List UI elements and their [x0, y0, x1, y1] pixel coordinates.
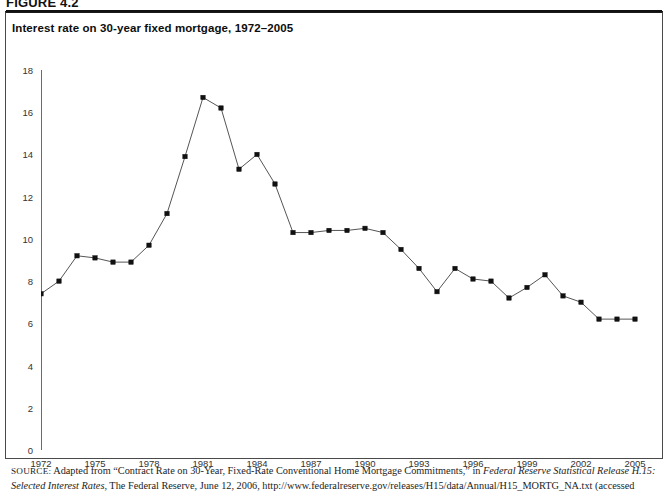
- data-point-marker: [255, 152, 259, 156]
- data-point-marker: [597, 317, 601, 321]
- y-axis-tick-label: 0: [11, 445, 33, 456]
- data-point-marker: [237, 167, 241, 171]
- data-point-marker: [381, 230, 385, 234]
- data-point-marker: [417, 266, 421, 270]
- y-axis-tick-label: 10: [11, 233, 33, 244]
- data-point-marker: [219, 106, 223, 110]
- data-point-marker: [345, 228, 349, 232]
- data-point-marker: [615, 317, 619, 321]
- data-point-marker: [273, 182, 277, 186]
- data-point-marker: [543, 273, 547, 277]
- data-point-marker: [41, 292, 43, 296]
- source-note: SOURCE: Adapted from “Contract Rate on 3…: [11, 464, 663, 493]
- y-axis-tick-label: 12: [11, 191, 33, 202]
- source-label: SOURCE:: [11, 466, 51, 476]
- data-point-marker: [111, 260, 115, 264]
- line-chart-plot-area: 0246810121416181972197519781981198419871…: [41, 70, 655, 450]
- source-line2-text: , The Federal Reserve, June 12, 2006, ht…: [104, 480, 634, 491]
- y-axis-tick-label: 8: [11, 276, 33, 287]
- chart-svg: [41, 70, 655, 450]
- data-point-marker: [399, 247, 403, 251]
- data-point-marker: [309, 230, 313, 234]
- data-point-marker: [435, 289, 439, 293]
- data-point-marker: [633, 317, 637, 321]
- data-point-marker: [165, 211, 169, 215]
- data-point-marker: [489, 279, 493, 283]
- data-point-marker: [183, 154, 187, 158]
- y-axis-tick-label: 18: [11, 65, 33, 76]
- data-point-marker: [579, 300, 583, 304]
- y-axis-tick-label: 2: [11, 402, 33, 413]
- figure-label: FIGURE 4.2: [6, 0, 79, 10]
- data-point-marker: [363, 226, 367, 230]
- data-point-marker: [201, 95, 205, 99]
- data-point-marker: [93, 256, 97, 260]
- y-axis-tick-label: 6: [11, 318, 33, 329]
- chart-title: Interest rate on 30-year fixed mortgage,…: [12, 22, 293, 34]
- y-axis-tick-label: 4: [11, 360, 33, 371]
- data-point-marker: [75, 254, 79, 258]
- data-point-marker: [561, 294, 565, 298]
- data-point-marker: [129, 260, 133, 264]
- data-point-marker: [471, 277, 475, 281]
- y-axis-tick-label: 14: [11, 149, 33, 160]
- data-point-marker: [327, 228, 331, 232]
- data-point-marker: [507, 296, 511, 300]
- data-point-marker: [147, 243, 151, 247]
- source-line1-italic: Federal Reserve Statistical Release H.15…: [483, 465, 655, 476]
- source-line2-italic: Selected Interest Rates: [11, 480, 104, 491]
- data-point-marker: [291, 230, 295, 234]
- data-point-marker: [525, 285, 529, 289]
- source-line1-text: Adapted from “Contract Rate on 30-Year, …: [51, 465, 483, 476]
- data-point-marker: [453, 266, 457, 270]
- y-axis-tick-label: 16: [11, 107, 33, 118]
- data-point-marker: [57, 279, 61, 283]
